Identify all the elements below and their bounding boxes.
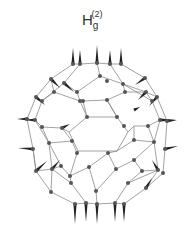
carbon-atom — [105, 79, 109, 83]
carbon-atom — [152, 140, 156, 144]
carbon-atom — [121, 82, 125, 86]
carbon-atom — [119, 62, 123, 66]
carbon-atom — [132, 138, 136, 142]
carbon-atom — [106, 151, 110, 155]
displacement-arrow — [95, 45, 98, 63]
carbon-atom — [49, 77, 53, 81]
bond-cage — [27, 63, 167, 204]
carbon-atom — [94, 189, 98, 193]
carbon-atom — [115, 115, 119, 119]
carbon-atom — [87, 165, 91, 169]
carbon-atom — [62, 81, 66, 85]
carbon-atom — [70, 139, 74, 143]
carbon-atom — [78, 62, 82, 66]
carbon-atom — [140, 169, 144, 173]
displacement-arrow — [122, 204, 125, 222]
carbon-atom — [146, 124, 150, 128]
carbon-atom — [108, 62, 112, 66]
carbon-atom — [155, 95, 159, 99]
carbon-atom — [75, 90, 79, 94]
carbon-atom — [34, 95, 38, 99]
displacement-arrows — [17, 45, 178, 224]
carbon-atom — [143, 76, 147, 80]
carbon-atom — [47, 141, 51, 145]
displacement-arrow — [71, 48, 74, 64]
carbon-atom — [161, 171, 165, 175]
carbon-atom — [81, 99, 85, 103]
carbon-atom — [52, 90, 56, 94]
carbon-atom — [122, 202, 126, 206]
carbon-atom — [68, 174, 72, 178]
carbon-atom — [34, 169, 38, 173]
displacement-arrow — [108, 50, 111, 64]
carbon-atom — [122, 124, 126, 128]
carbon-atom — [50, 167, 54, 171]
carbon-atom — [60, 126, 64, 130]
carbon-atom — [113, 201, 117, 205]
carbon-atom — [85, 115, 89, 119]
carbon-atom — [144, 186, 148, 190]
carbon-atom — [71, 62, 75, 66]
carbon-atom — [114, 167, 118, 171]
carbon-atom — [144, 90, 148, 94]
carbon-atom — [105, 98, 109, 102]
carbon-atom — [156, 168, 160, 172]
carbon-atom — [84, 201, 88, 205]
carbon-atom — [69, 181, 73, 185]
carbon-atom — [123, 90, 127, 94]
carbon-atom — [132, 158, 136, 162]
displacement-arrow — [95, 204, 98, 224]
displacement-arrow — [78, 50, 81, 64]
carbon-atom — [73, 202, 77, 206]
carbon-atom — [150, 99, 154, 103]
carbon-atom — [49, 190, 53, 194]
carbon-atom — [40, 99, 44, 103]
carbon-atom — [165, 119, 169, 123]
displacement-arrow — [18, 147, 33, 150]
carbon-atom — [126, 181, 130, 185]
displacement-arrow — [113, 203, 116, 222]
carbon-atom — [40, 125, 44, 129]
carbon-atom — [75, 151, 79, 155]
carbon-atom — [158, 118, 162, 122]
displacement-arrow — [73, 204, 76, 224]
carbon-atom — [95, 61, 99, 65]
carbon-atom — [31, 147, 35, 151]
carbon-atom — [59, 164, 63, 168]
displacement-arrow — [84, 203, 87, 222]
displacement-arrow — [133, 107, 140, 111]
fullerene-diagram — [0, 0, 192, 241]
carbon-atom — [25, 117, 29, 121]
carbon-atom — [163, 147, 167, 151]
carbon-atom — [33, 118, 37, 122]
carbon-atom — [98, 74, 102, 78]
displacement-arrow — [119, 48, 122, 64]
carbon-atom — [95, 202, 99, 206]
